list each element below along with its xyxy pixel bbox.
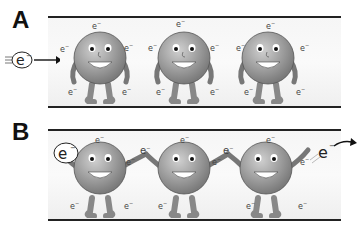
svg-text:−: − [70,144,76,152]
outgoing-electron-icon: e − [310,136,360,166]
passing-electron: e− [223,145,233,156]
held-electron-icon: e − [52,140,82,166]
free-electron: e− [180,134,189,145]
svg-text:e: e [58,145,67,163]
free-electron: e− [126,156,135,167]
atom-figure-b3 [230,138,302,218]
free-electron: e− [70,200,79,211]
free-electron: e− [298,200,307,211]
free-electron: e− [300,156,309,167]
free-electron: e− [266,134,275,145]
free-electron: e− [95,134,104,145]
free-electron: e− [124,200,133,211]
passing-electron: e− [140,145,150,156]
free-electron: e− [246,200,255,211]
free-electron: e− [158,200,167,211]
free-electron: e− [212,156,221,167]
svg-text:e: e [318,143,328,162]
